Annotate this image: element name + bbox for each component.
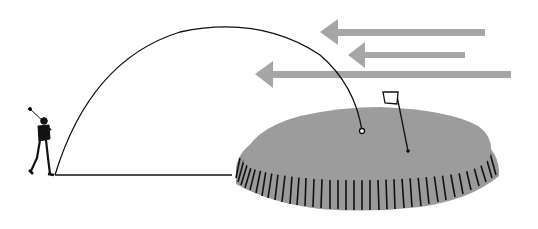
flag — [383, 92, 398, 104]
green-surface — [243, 107, 491, 180]
hole — [407, 150, 410, 153]
putting-green — [236, 107, 499, 211]
wind-arrow-middle — [348, 42, 465, 68]
diagram-canvas — [0, 0, 538, 229]
wind-arrows — [255, 19, 511, 88]
golfer-figure — [29, 108, 55, 176]
golfer-head — [41, 118, 48, 125]
wind-arrow-top — [320, 19, 485, 45]
golf-ball — [360, 129, 365, 134]
golfer-legs — [31, 140, 50, 174]
wind-arrow-bottom — [255, 61, 511, 88]
golf-wind-diagram — [0, 0, 538, 229]
club-head — [29, 108, 32, 111]
